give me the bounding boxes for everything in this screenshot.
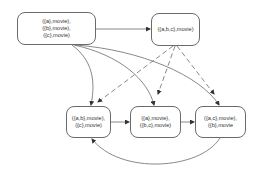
edge-n1-n5 (76, 45, 219, 105)
node-n3: ({a,b},movie), ({c},movie) (66, 106, 111, 138)
edge-n5-n3 (92, 138, 220, 164)
node-n2: ({a,b,c},movie) (151, 13, 200, 46)
node-n1-line-1: ({a},movie), (42, 18, 71, 25)
node-n1: ({a},movie), ({b},movie), ({c},movie) (17, 12, 96, 45)
edge-n1-n4 (74, 45, 154, 105)
node-n2-line-1: ({a,b,c},movie) (157, 26, 193, 33)
node-n5-line-1: ({a,c},movie), (204, 115, 237, 122)
node-n4-line-2: ({b,c},movie) (140, 122, 171, 129)
node-n1-line-2: ({b},movie), (42, 25, 71, 32)
edge-n2-n5 (177, 46, 214, 94)
node-n4-line-1: ({a},movie), (141, 115, 170, 122)
node-n3-line-2: ({c},movie) (75, 122, 102, 129)
node-n5: ({a,c},movie), ({b},movie (195, 106, 246, 138)
node-n1-line-3: ({c},movie) (43, 32, 70, 39)
node-n3-line-1: ({a,b},movie), (72, 115, 105, 122)
edge-n2-n3 (98, 46, 173, 102)
node-n5-line-2: ({b},movie (208, 122, 233, 129)
edge-n2-n4 (158, 46, 175, 94)
edge-n1-n3 (72, 45, 93, 105)
node-n4: ({a},movie), ({b,c},movie) (130, 106, 181, 138)
